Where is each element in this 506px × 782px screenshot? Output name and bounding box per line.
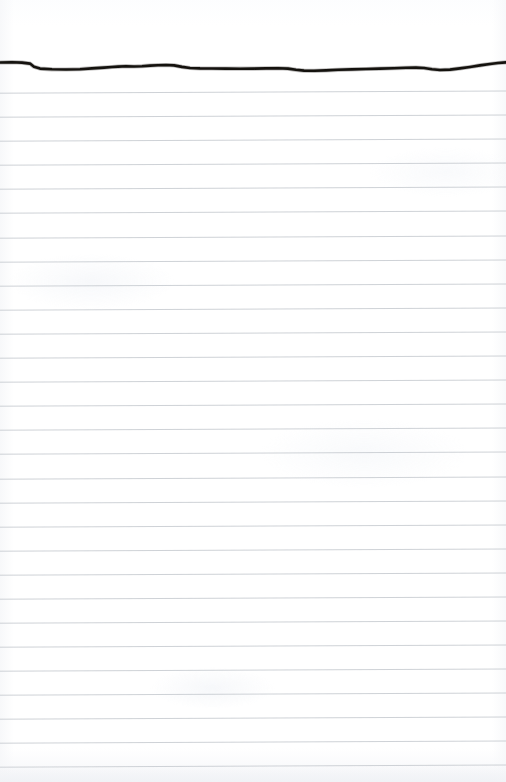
rule-line [0, 621, 506, 623]
rule-line [0, 284, 506, 286]
rule-line [0, 549, 506, 551]
ruled-lines-layer [0, 0, 506, 782]
rule-line [0, 717, 506, 719]
rule-line [0, 404, 506, 406]
rule-line [0, 308, 506, 310]
rule-line [0, 91, 506, 93]
rule-line [0, 332, 506, 334]
rule-line-group [0, 91, 506, 767]
rule-line [0, 693, 506, 695]
handwritten-stroke-shadow [0, 62, 506, 71]
rule-line [0, 356, 506, 358]
rule-line [0, 187, 506, 189]
rule-line [0, 211, 506, 213]
rule-line [0, 428, 506, 430]
rule-line [0, 452, 506, 454]
rule-line [0, 525, 506, 527]
bottom-edge-shading [0, 766, 506, 782]
rule-line [0, 645, 506, 647]
rule-line [0, 669, 506, 671]
rule-line [0, 477, 506, 479]
rule-line [0, 380, 506, 382]
rule-line [0, 501, 506, 503]
rule-line [0, 741, 506, 743]
rule-line [0, 765, 506, 767]
rule-line [0, 139, 506, 141]
notepad-page [0, 0, 506, 782]
paper-grain-texture [0, 0, 506, 782]
ink-stroke-layer [0, 0, 506, 782]
rule-line [0, 115, 506, 117]
rule-line [0, 597, 506, 599]
rule-line [0, 260, 506, 262]
rule-line [0, 163, 506, 165]
rule-line [0, 573, 506, 575]
handwritten-stroke-icon [0, 62, 506, 71]
rule-line [0, 236, 506, 238]
